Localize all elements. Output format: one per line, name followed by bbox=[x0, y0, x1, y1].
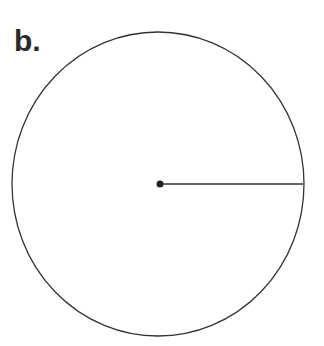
center-point bbox=[157, 181, 164, 188]
circle-diagram bbox=[0, 0, 324, 346]
